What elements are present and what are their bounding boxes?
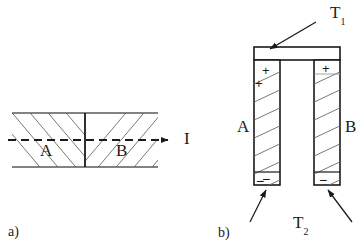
panel-b-label-hot-junction: T1 — [330, 4, 345, 24]
hot-junction-bar — [254, 47, 340, 60]
panel-b-label-cold-ends: T2 — [293, 214, 308, 234]
figure-root: A B I a) A B T1 T2 b) + + + − − − — [0, 0, 362, 248]
hot-junction-symbol: T — [330, 3, 340, 22]
panel-a-label-segment-b: B — [116, 142, 127, 159]
leg-b-outline — [314, 60, 340, 185]
polarity-plus-leg-a-top-second: + — [255, 77, 263, 90]
panel-a-label-current: I — [184, 130, 190, 147]
panel-a-caption: a) — [8, 225, 19, 239]
cold-ends-subscript: 2 — [303, 226, 308, 237]
hot-junction-pointer — [270, 22, 316, 49]
polarity-minus-leg-a-bottom-second: − — [256, 174, 264, 188]
panel-a-label-segment-a: A — [40, 142, 52, 159]
panel-b-graphics — [250, 22, 352, 222]
polarity-plus-leg-a-top: + — [262, 64, 270, 77]
panel-b-label-leg-b: B — [345, 118, 356, 135]
polarity-plus-leg-b-top: + — [322, 62, 330, 75]
polarity-minus-leg-b-bottom: − — [319, 173, 327, 187]
figure-canvas — [0, 0, 362, 248]
cold-end-pointer-a — [250, 190, 266, 222]
hot-junction-subscript: 1 — [340, 16, 345, 27]
panel-b-label-leg-a: A — [237, 118, 249, 135]
panel-b-caption: b) — [218, 226, 230, 240]
cold-end-pointer-b — [328, 190, 352, 222]
cold-ends-symbol: T — [293, 213, 303, 232]
panel-a-graphics — [0, 108, 202, 172]
